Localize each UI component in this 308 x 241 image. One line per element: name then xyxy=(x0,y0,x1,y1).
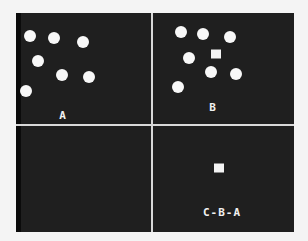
circle-dot xyxy=(48,32,60,44)
circle-dot xyxy=(83,71,95,83)
circle-dot xyxy=(205,66,217,78)
screen-edge xyxy=(16,13,21,232)
circle-dot xyxy=(77,36,89,48)
display-screen: A B C-B-A xyxy=(16,13,294,232)
circle-dot xyxy=(24,30,36,42)
circle-dot xyxy=(32,55,44,67)
circle-dot xyxy=(183,52,195,64)
square-marker xyxy=(211,50,221,59)
circle-dot xyxy=(175,26,187,38)
panel-b-label: B xyxy=(209,101,217,114)
circle-dot xyxy=(230,68,242,80)
square-marker xyxy=(214,164,224,173)
circle-dot xyxy=(56,69,68,81)
panel-a-label: A xyxy=(59,109,67,122)
circle-dot xyxy=(20,85,32,97)
circle-dot xyxy=(172,81,184,93)
circle-dot xyxy=(197,28,209,40)
panel-c-label: C-B-A xyxy=(203,206,241,219)
circle-dot xyxy=(224,31,236,43)
horizontal-divider xyxy=(16,124,294,126)
vertical-divider xyxy=(151,13,153,232)
